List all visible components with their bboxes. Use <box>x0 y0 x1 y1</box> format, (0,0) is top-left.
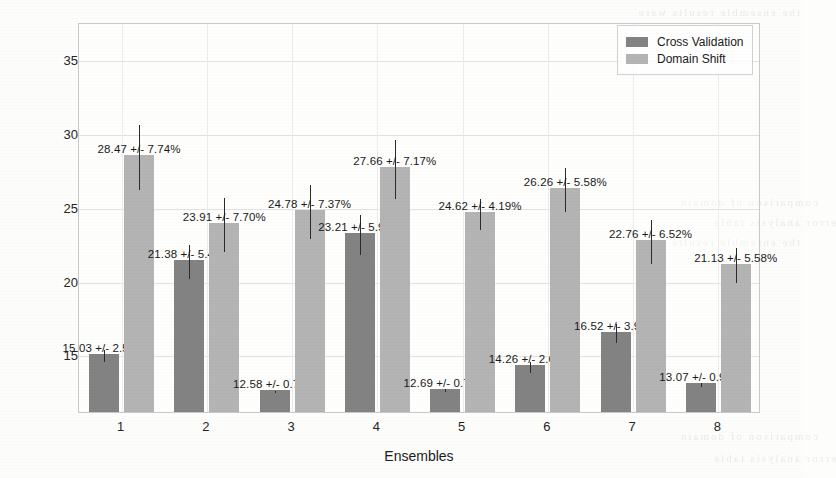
y-axis-tick-label: 35 <box>64 52 78 67</box>
bar-value-label: 28.47 +/- 7.74% <box>98 143 181 155</box>
bar-domain-shift <box>295 210 325 412</box>
x-axis-tick-label: 3 <box>288 419 295 434</box>
error-bar <box>275 391 276 394</box>
bar-domain-shift <box>550 188 580 412</box>
legend-item: Cross Validation <box>626 33 743 50</box>
bar-domain-shift <box>465 212 495 412</box>
bar-domain-shift <box>721 264 751 412</box>
bar-value-label: 24.78 +/- 7.37% <box>268 198 351 210</box>
error-bar <box>224 198 225 252</box>
x-axis-label: Ensembles <box>78 448 760 464</box>
bar-cross-validation <box>345 233 375 412</box>
y-axis-tick-label: 25 <box>64 200 78 215</box>
bar-value-label: 26.26 +/- 5.58% <box>524 176 607 188</box>
bar-value-label: 27.66 +/- 7.17% <box>353 155 436 167</box>
legend-item-label: Cross Validation <box>657 35 743 49</box>
error-bar <box>651 220 652 264</box>
bar-value-label: 22.76 +/- 6.52% <box>609 228 692 240</box>
vertical-gridline <box>633 24 634 412</box>
x-axis-tick-label: 8 <box>714 419 721 434</box>
legend-swatch-icon <box>626 37 648 47</box>
legend-swatch-icon <box>626 54 648 64</box>
bar-domain-shift <box>380 167 410 412</box>
error-bar <box>445 389 446 392</box>
error-bar <box>565 168 566 211</box>
y-axis-tick-label: 20 <box>64 274 78 289</box>
gridline <box>79 135 759 136</box>
bar-cross-validation <box>89 354 119 412</box>
x-axis-tick-label: 4 <box>373 419 380 434</box>
gridline <box>79 209 759 210</box>
vertical-gridline <box>292 24 293 412</box>
error-bar <box>139 125 140 190</box>
legend-item-label: Domain Shift <box>657 52 726 66</box>
y-axis-tick-label: 30 <box>64 126 78 141</box>
x-axis-tick-label: 2 <box>202 419 209 434</box>
bar-cross-validation <box>686 383 716 412</box>
bar-value-label: 23.91 +/- 7.70% <box>183 211 266 223</box>
error-bar <box>701 383 702 387</box>
vertical-gridline <box>718 24 719 412</box>
x-axis-tick-label: 7 <box>629 419 636 434</box>
bar-cross-validation <box>174 260 204 412</box>
legend-item: Domain Shift <box>626 50 743 67</box>
error-bar <box>310 185 311 239</box>
bar-cross-validation <box>430 389 460 412</box>
bar-cross-validation <box>601 332 631 412</box>
plot-area: 15.03 +/- 2.59%28.47 +/- 7.74%21.38 +/- … <box>78 23 760 413</box>
x-axis-tick-label: 6 <box>543 419 550 434</box>
bar-value-label: 24.62 +/- 4.19% <box>439 200 522 212</box>
vertical-gridline <box>377 24 378 412</box>
chart-legend: Cross ValidationDomain Shift <box>617 25 753 75</box>
bar-domain-shift <box>636 240 666 412</box>
bar-domain-shift <box>124 155 154 412</box>
bar-value-label: 21.13 +/- 5.58% <box>694 252 777 264</box>
error-bar <box>395 140 396 199</box>
x-axis-tick-label: 5 <box>458 419 465 434</box>
vertical-gridline <box>463 24 464 412</box>
x-axis-tick-label: 1 <box>117 419 124 434</box>
